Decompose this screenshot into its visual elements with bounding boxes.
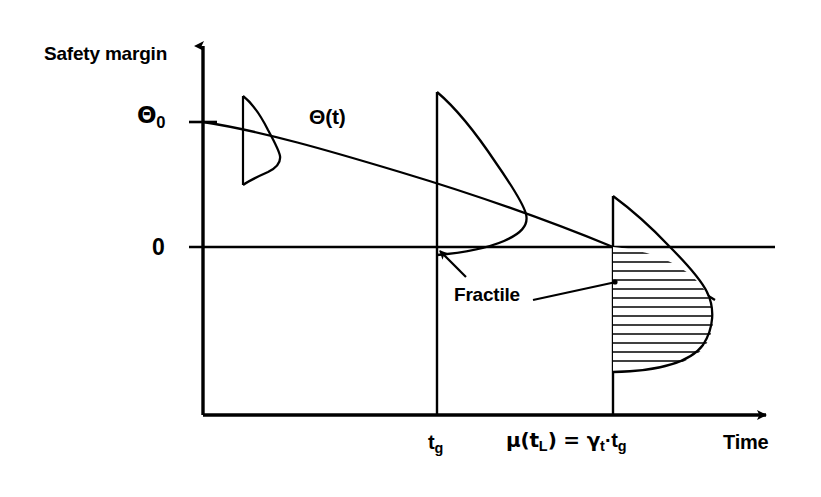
safety-margin-diagram: Safety margin Θ0 0 Θ(t) Fractile tg μ(tL… bbox=[0, 0, 821, 497]
tg-subscript: g bbox=[434, 440, 443, 456]
distribution-tg bbox=[437, 92, 527, 255]
y-tick-label-zero: 0 bbox=[152, 236, 165, 259]
distribution-tg-density bbox=[437, 92, 527, 255]
mu-expr-part1: μ(t bbox=[506, 428, 539, 452]
diagram-canvas bbox=[0, 0, 821, 497]
theta0-base: Θ bbox=[137, 102, 156, 128]
mu-expr-sub1: L bbox=[539, 438, 548, 454]
distribution-t0 bbox=[243, 96, 280, 185]
x-tick-label-mu-tl: μ(tL) = γt·tg bbox=[506, 430, 627, 453]
y-axis-label: Safety margin bbox=[44, 44, 167, 63]
y-tick-label-theta0: Θ0 bbox=[137, 104, 166, 131]
mu-expr-part2: ) = γ bbox=[548, 428, 600, 452]
x-axis-label: Time bbox=[723, 432, 769, 452]
mu-expr-part3: ·t bbox=[605, 429, 618, 451]
theta0-subscript: 0 bbox=[156, 113, 165, 132]
x-tick-label-tg: tg bbox=[428, 432, 443, 455]
theta-t-curve-label: Θ(t) bbox=[309, 106, 346, 127]
tick-group bbox=[189, 92, 775, 415]
fractile-leader-dot bbox=[612, 279, 617, 284]
fractile-leader-right bbox=[533, 282, 616, 300]
distribution-tl bbox=[608, 196, 730, 377]
mu-expr-sub3: g bbox=[618, 438, 627, 454]
fractile-leader-left bbox=[440, 251, 466, 277]
distribution-t0-density bbox=[243, 96, 280, 185]
fractile-label: Fractile bbox=[454, 285, 520, 304]
